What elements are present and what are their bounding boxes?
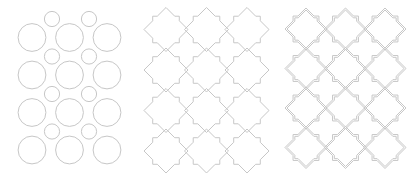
star-outline-outer <box>325 127 367 169</box>
figure-canvas <box>0 0 415 173</box>
construction-circle-large <box>18 61 46 89</box>
star-outline-outer <box>144 129 188 173</box>
star-outline-outer <box>364 8 406 50</box>
star-outline-outer <box>285 127 327 169</box>
construction-circle-large <box>56 24 84 52</box>
star-outline-outer <box>325 8 367 50</box>
star-outline-outer <box>285 48 327 90</box>
star-outline-outer <box>144 89 188 133</box>
panel-star-cross-single-line <box>144 8 269 174</box>
star-outline-outer <box>225 89 269 133</box>
star-outline-outer <box>285 87 327 129</box>
construction-circle-small <box>44 11 59 26</box>
construction-circle-large <box>56 61 84 89</box>
star-outline-outer <box>225 129 269 173</box>
star-outline-outer <box>144 48 188 92</box>
star-outline-outer <box>285 8 327 50</box>
construction-circle-small <box>44 124 59 139</box>
construction-circle-large <box>93 61 121 89</box>
construction-circle-large <box>93 136 121 164</box>
pattern-figure <box>0 0 415 173</box>
star-outline-outer <box>364 127 406 169</box>
construction-circle-large <box>93 99 121 127</box>
star-outline-outer <box>185 129 229 173</box>
star-outline-outer <box>225 48 269 92</box>
star-outline-outer <box>185 48 229 92</box>
star-outline-outer <box>325 87 367 129</box>
panel-star-cross-double-line <box>285 8 406 169</box>
construction-circle-large <box>56 99 84 127</box>
construction-circle-small <box>44 49 59 64</box>
construction-circle-small <box>81 49 96 64</box>
star-outline-outer <box>225 8 269 52</box>
construction-circle-large <box>18 136 46 164</box>
construction-circle-large <box>18 99 46 127</box>
construction-circle-small <box>81 11 96 26</box>
star-outline-outer <box>364 48 406 90</box>
star-outline-outer <box>364 87 406 129</box>
star-outline-outer <box>144 8 188 52</box>
star-outline-outer <box>185 8 229 52</box>
construction-circle-small <box>81 86 96 101</box>
construction-circle-large <box>18 24 46 52</box>
construction-circle-large <box>56 136 84 164</box>
construction-circle-large <box>93 24 121 52</box>
star-outline-outer <box>185 89 229 133</box>
star-outline-outer <box>325 48 367 90</box>
construction-circle-small <box>44 86 59 101</box>
panel-circle-grid <box>18 11 121 164</box>
construction-circle-small <box>81 124 96 139</box>
